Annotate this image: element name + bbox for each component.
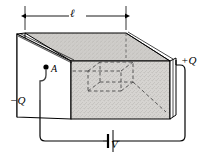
length-label: ℓ (70, 8, 75, 19)
positive-charge-label: +Q (181, 55, 196, 66)
negative-charge-label: −Q (10, 95, 25, 106)
positive-plate-face (170, 58, 176, 119)
dielectric-front-face (71, 61, 170, 119)
battery-voltage-label: V (111, 139, 118, 150)
capacitor-diagram-svg (0, 0, 206, 159)
capacitor-figure: ℓ +Q −Q A V (0, 0, 206, 159)
dimension-line-length (25, 6, 126, 30)
point-a-label: A (51, 64, 57, 74)
